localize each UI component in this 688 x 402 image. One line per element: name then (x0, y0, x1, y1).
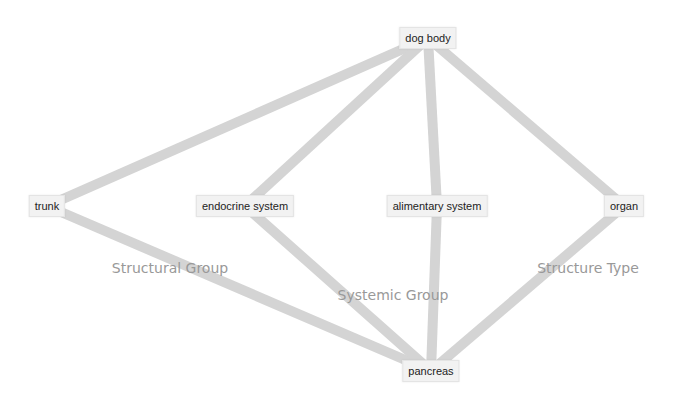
edge-organ-pancreas (431, 206, 624, 371)
group-label: Systemic Group (338, 287, 449, 303)
group-label: Structure Type (537, 260, 639, 276)
node-pancreas[interactable]: pancreas (402, 360, 459, 382)
edge-dog_body-trunk (47, 38, 428, 206)
edge-dog_body-endocrine_system (245, 38, 428, 206)
node-trunk[interactable]: trunk (29, 195, 65, 217)
edge-dog_body-alimentary_system (428, 38, 437, 206)
node-organ[interactable]: organ (604, 195, 644, 217)
edge-dog_body-organ (428, 38, 624, 206)
node-endocrine-system[interactable]: endocrine system (196, 195, 294, 217)
group-label: Structural Group (112, 260, 228, 276)
graph-edges (0, 0, 688, 402)
node-alimentary-system[interactable]: alimentary system (387, 195, 488, 217)
node-dog-body[interactable]: dog body (399, 27, 456, 49)
